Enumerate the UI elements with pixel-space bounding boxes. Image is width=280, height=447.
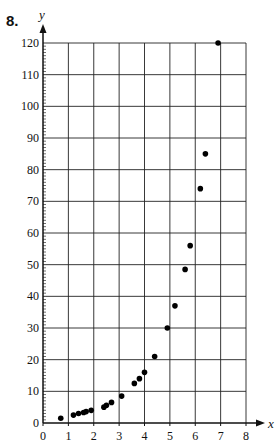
- data-point: [198, 186, 204, 192]
- data-point: [83, 409, 89, 415]
- x-tick-label: 1: [65, 429, 71, 443]
- data-point: [165, 325, 171, 331]
- data-point: [142, 370, 148, 376]
- data-point: [137, 376, 143, 382]
- data-point: [132, 381, 138, 387]
- data-point: [119, 393, 125, 399]
- y-tick-label: 80: [27, 163, 39, 177]
- x-tick-label: 5: [167, 429, 173, 443]
- data-point: [182, 267, 188, 273]
- data-point: [76, 411, 82, 417]
- x-axis-arrow-icon: [256, 420, 265, 427]
- grid-lines: [43, 43, 246, 423]
- y-tick-label: 70: [27, 194, 39, 208]
- data-point: [187, 243, 193, 249]
- y-axis-arrow-icon: [40, 24, 47, 33]
- y-tick-label: 30: [27, 321, 39, 335]
- data-point: [58, 415, 64, 421]
- x-tick-label: 7: [218, 429, 224, 443]
- data-point: [215, 40, 221, 46]
- y-tick-label: 110: [21, 68, 39, 82]
- data-point: [152, 354, 158, 360]
- data-point: [203, 151, 209, 157]
- y-tick-label: 20: [27, 353, 39, 367]
- y-tick-label: 120: [21, 36, 39, 50]
- data-points: [58, 40, 221, 421]
- data-point: [172, 303, 178, 309]
- y-tick-label: 100: [21, 99, 39, 113]
- x-tick-label: 0: [40, 429, 46, 443]
- x-axis-label: x: [267, 416, 274, 431]
- y-tick-label: 90: [27, 131, 39, 145]
- y-tick-label: 10: [27, 384, 39, 398]
- y-tick-label: 60: [27, 226, 39, 240]
- data-point: [109, 400, 115, 406]
- y-tick-label: 50: [27, 258, 39, 272]
- x-tick-label: 2: [91, 429, 97, 443]
- y-tick-label: 40: [27, 289, 39, 303]
- scatter-chart: 0102030405060708090100110120012345678 x …: [0, 0, 280, 447]
- data-point: [71, 412, 77, 418]
- data-point: [104, 402, 110, 408]
- x-tick-label: 8: [243, 429, 249, 443]
- y-axis-label: y: [37, 7, 45, 22]
- x-tick-label: 3: [116, 429, 122, 443]
- axes: [40, 24, 266, 427]
- x-tick-label: 6: [192, 429, 198, 443]
- data-point: [88, 408, 94, 414]
- y-tick-label: 0: [33, 416, 39, 430]
- x-tick-label: 4: [142, 429, 148, 443]
